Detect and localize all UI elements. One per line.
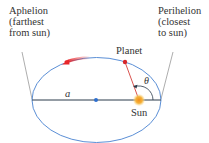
sun-label: Sun	[131, 107, 147, 118]
orbit-diagram: Aphelion (farthest from sun) Perihelion …	[0, 0, 209, 143]
planet-dot	[123, 60, 127, 64]
theta-label: θ	[144, 75, 149, 86]
radius-line	[125, 62, 139, 100]
perihelion-label-line-1: Perihelion	[158, 5, 201, 16]
perihelion-label-line-2: (closest	[158, 16, 201, 27]
aphelion-label: Aphelion (farthest from sun)	[9, 5, 50, 38]
aphelion-label-line-3: from sun)	[9, 27, 50, 38]
semi-major-axis-label: a	[65, 88, 70, 99]
aphelion-label-line-2: (farthest	[9, 16, 50, 27]
planet-label: Planet	[116, 45, 142, 56]
aphelion-label-line-1: Aphelion	[9, 5, 50, 16]
perihelion-label: Perihelion (closest to sun)	[158, 5, 201, 38]
motion-arrow	[66, 58, 90, 63]
aphelion-leader-line	[22, 52, 32, 99]
sun-icon	[133, 94, 145, 106]
motion-arrow-head-icon	[62, 60, 70, 65]
perihelion-label-line-3: to sun)	[158, 27, 201, 38]
center-dot	[94, 98, 98, 102]
perihelion-leader-line	[161, 52, 173, 99]
